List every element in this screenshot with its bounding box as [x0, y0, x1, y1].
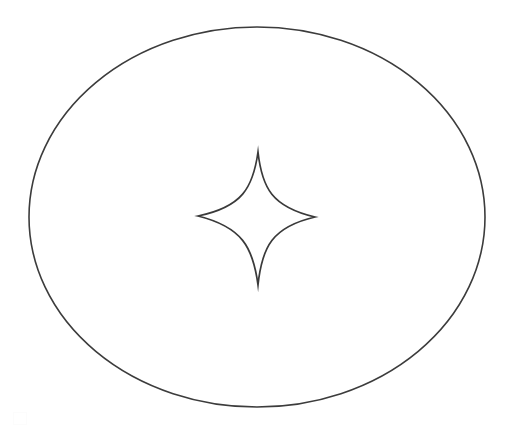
- canvas-background: [0, 0, 507, 426]
- drawing-canvas: [0, 0, 507, 426]
- figure-svg: [0, 0, 507, 426]
